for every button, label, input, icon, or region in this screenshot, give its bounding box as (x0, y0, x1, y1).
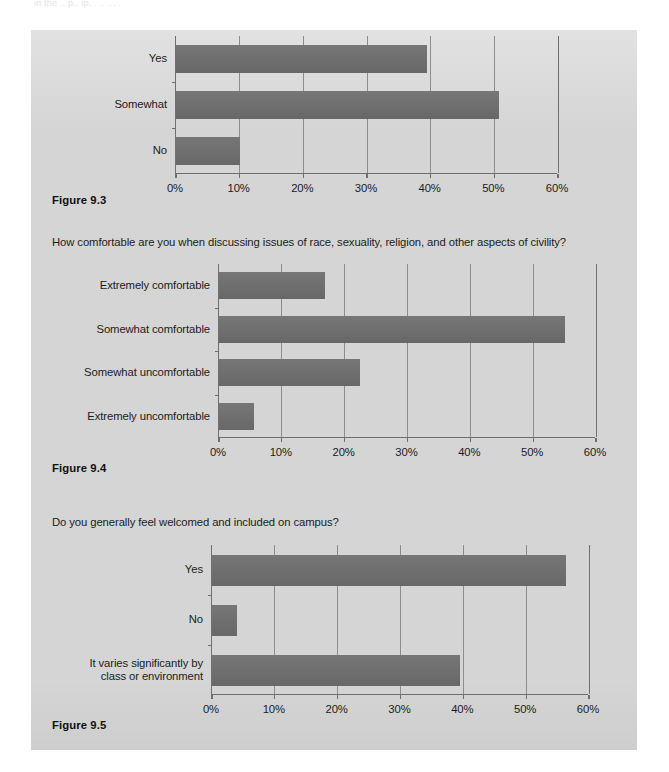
x-axis-tick-label: 60% (565, 446, 625, 458)
x-axis-tick-label: 10% (209, 182, 269, 194)
x-axis-tick-label: 20% (314, 446, 374, 458)
x-axis-tick (400, 695, 401, 699)
y-axis-tick (208, 645, 212, 646)
bar (176, 45, 427, 74)
figure-caption-9-5: Figure 9.5 (31, 719, 637, 731)
category-label: It varies significantly by class or envi… (31, 657, 203, 684)
x-axis-tick (407, 438, 408, 442)
y-axis-tick (172, 128, 176, 129)
category-label: No (31, 144, 167, 158)
x-axis-tick-label: 10% (244, 703, 304, 715)
x-axis-tick-label: 40% (432, 703, 492, 715)
x-axis-tick-label: 40% (400, 182, 460, 194)
bar (212, 605, 237, 636)
y-axis-tick (172, 82, 176, 83)
x-axis-tick (281, 438, 282, 442)
bar (212, 655, 460, 686)
gridline (470, 264, 471, 437)
category-label: Somewhat (31, 98, 167, 112)
x-axis-tick (366, 174, 367, 178)
x-axis-tick (239, 174, 240, 178)
category-label: No (31, 613, 203, 627)
figure-caption-9-3: Figure 9.3 (31, 194, 637, 206)
clipped-header-text: in the .. p.. ip. . .. ... . (0, 0, 669, 9)
x-axis-tick-label: 0% (188, 446, 248, 458)
x-axis-tick-label: 30% (336, 182, 396, 194)
category-label: Yes (31, 52, 167, 66)
x-axis-tick (470, 438, 471, 442)
gridline (596, 264, 597, 437)
gridline (558, 36, 559, 173)
plot-area (218, 264, 595, 438)
bar (176, 91, 499, 120)
x-axis-tick-label: 40% (439, 446, 499, 458)
bar (219, 316, 565, 343)
x-axis-tick-label: 50% (463, 182, 523, 194)
category-label: Somewhat uncomfortable (31, 366, 210, 380)
figure-caption-9-4: Figure 9.4 (31, 462, 637, 474)
y-axis-tick (215, 308, 219, 309)
figure-block-9-5: Do you generally feel welcomed and inclu… (31, 515, 637, 731)
chart-9-5: 0%10%20%30%40%50%60%YesNoIt varies signi… (31, 539, 637, 714)
plot-area (211, 545, 588, 695)
x-axis-tick-label: 10% (251, 446, 311, 458)
x-axis-tick (337, 695, 338, 699)
x-axis-tick (218, 438, 219, 442)
bar (212, 555, 566, 586)
figure-block-9-3: 0%10%20%30%40%50%60%YesSomewhatNo Figure… (31, 30, 637, 206)
x-axis-tick-label: 60% (527, 182, 587, 194)
y-axis-tick (215, 351, 219, 352)
x-axis-tick-label: 0% (145, 182, 205, 194)
x-axis-tick (595, 438, 596, 442)
x-axis-tick (463, 695, 464, 699)
x-axis-tick (344, 438, 345, 442)
category-label: Yes (31, 563, 203, 577)
x-axis-tick-label: 50% (495, 703, 555, 715)
x-axis-tick (211, 695, 212, 699)
x-axis-tick (557, 174, 558, 178)
x-axis-tick (494, 174, 495, 178)
x-axis-tick-label: 0% (181, 703, 241, 715)
x-axis-tick (274, 695, 275, 699)
plot-area (175, 36, 557, 174)
question-text-9-4: How comfortable are you when discussing … (31, 235, 637, 249)
x-axis-tick-label: 30% (377, 446, 437, 458)
x-axis-tick (430, 174, 431, 178)
x-axis-tick-label: 30% (370, 703, 430, 715)
gridline (344, 264, 345, 437)
x-axis-tick-label: 60% (558, 703, 618, 715)
category-label: Extremely comfortable (31, 279, 210, 293)
category-label: Extremely uncomfortable (31, 410, 210, 424)
y-axis-tick (208, 595, 212, 596)
x-axis-tick (175, 174, 176, 178)
x-axis-tick (533, 438, 534, 442)
x-axis-tick (303, 174, 304, 178)
x-axis-tick-label: 20% (307, 703, 367, 715)
gridline (589, 545, 590, 694)
bar (219, 272, 325, 299)
question-text-9-5: Do you generally feel welcomed and inclu… (31, 515, 637, 529)
bar (176, 137, 240, 166)
x-axis-tick (526, 695, 527, 699)
y-axis-tick (215, 395, 219, 396)
x-axis-tick-label: 50% (502, 446, 562, 458)
chart-9-4: 0%10%20%30%40%50%60%Extremely comfortabl… (31, 258, 637, 458)
category-label: Somewhat comfortable (31, 323, 210, 337)
figures-panel: 0%10%20%30%40%50%60%YesSomewhatNo Figure… (31, 30, 637, 750)
x-axis-tick (588, 695, 589, 699)
bar (219, 359, 360, 386)
x-axis-tick-label: 20% (272, 182, 332, 194)
gridline (533, 264, 534, 437)
bar (219, 403, 254, 430)
figure-block-9-4: How comfortable are you when discussing … (31, 235, 637, 474)
gridline (407, 264, 408, 437)
chart-9-3: 0%10%20%30%40%50%60%YesSomewhatNo (31, 30, 637, 190)
